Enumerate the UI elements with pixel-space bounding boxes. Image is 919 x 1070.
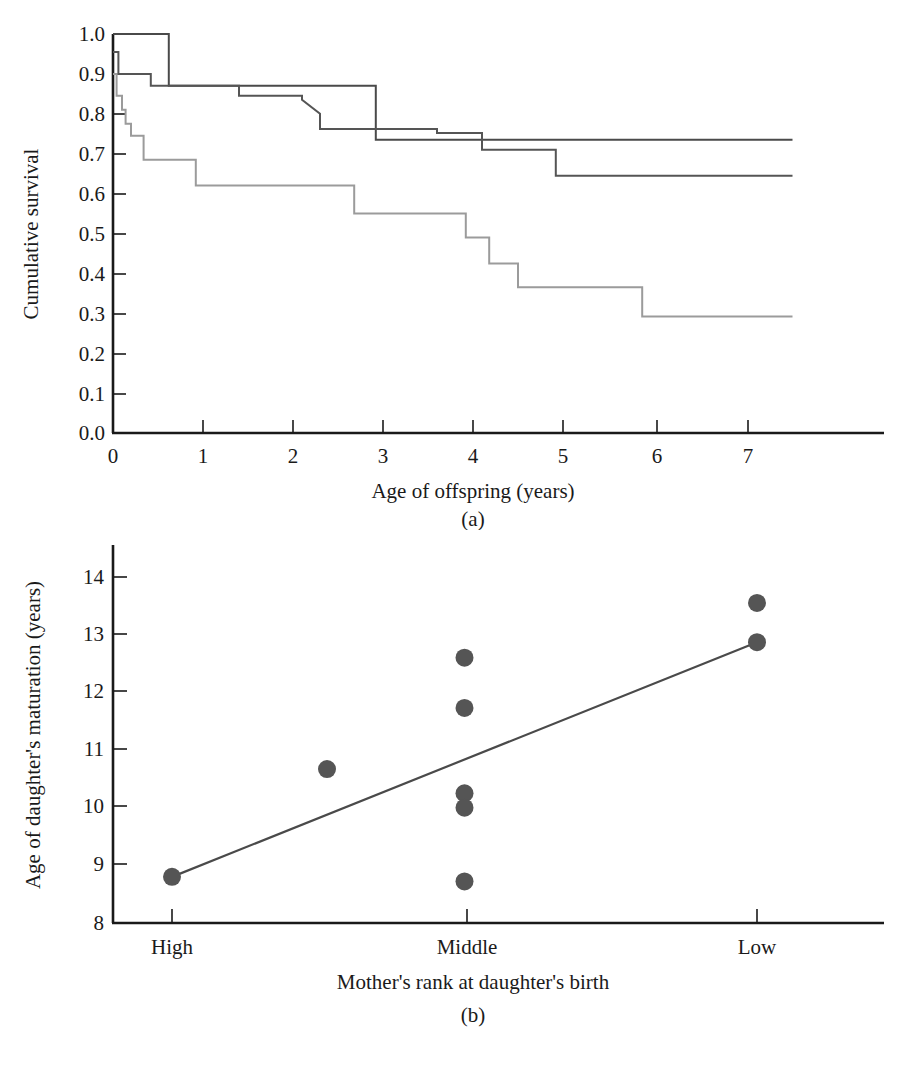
panel-b-caption: (b)	[461, 1003, 486, 1027]
panel-a-caption: (a)	[461, 507, 484, 530]
scatter-point	[748, 633, 766, 651]
panel-a-xtick-3: 3	[378, 444, 389, 468]
scatter-point	[163, 868, 181, 886]
panel-a-ytick-7: 0.7	[79, 142, 105, 166]
scatter-point	[318, 760, 336, 778]
panel-a-ytick-0: 0.0	[79, 421, 105, 445]
panel-a-y-axis-title: Cumulative survival	[19, 148, 43, 319]
scatter-point	[456, 799, 474, 817]
panel-a-ytick-2: 0.2	[79, 342, 105, 366]
panel-b-xtick-middle: Middle	[437, 935, 498, 959]
panel-b-xtick-high: High	[151, 935, 194, 959]
panel-a-survival-chart: 1.0 0.9 0.8 0.7 0.6 0.5 0.4 0.3 0.2 0.1 …	[0, 0, 919, 530]
panel-b-y-ticks	[113, 577, 127, 923]
panel-b-ytick-13: 13	[83, 622, 104, 646]
panel-b-ytick-9: 9	[94, 852, 105, 876]
scatter-point	[456, 872, 474, 890]
panel-b-xtick-low: Low	[738, 935, 777, 959]
panel-a-ytick-4: 0.4	[79, 262, 106, 286]
panel-b-ytick-8: 8	[94, 911, 105, 935]
scatter-point	[748, 594, 766, 612]
survival-curve-middle-rank	[113, 52, 793, 176]
panel-a-xtick-7: 7	[743, 444, 754, 468]
panel-a-ytick-8: 0.8	[79, 102, 105, 126]
scatter-point	[456, 649, 474, 667]
panel-a-ytick-9: 0.9	[79, 62, 105, 86]
panel-b-ytick-10: 10	[83, 794, 104, 818]
panel-a-xtick-5: 5	[558, 444, 569, 468]
scatter-point	[456, 699, 474, 717]
panel-a-x-axis-title: Age of offspring (years)	[371, 479, 574, 503]
panel-a-ytick-6: 0.6	[79, 182, 105, 206]
panel-a-xtick-6: 6	[652, 444, 663, 468]
panel-b-svg-native: 14 13 12 11 10 9 8 High Middle Low Age o…	[0, 530, 919, 1070]
panel-a-curves	[113, 34, 793, 316]
panel-a-ytick-10: 1.0	[79, 22, 105, 46]
panel-a-svg: 1.0 0.9 0.8 0.7 0.6 0.5 0.4 0.3 0.2 0.1 …	[0, 0, 919, 530]
panel-a-xtick-0: 0	[108, 444, 119, 468]
panel-a-xtick-1: 1	[198, 444, 209, 468]
panel-a-x-ticks	[113, 420, 748, 433]
panel-a-xtick-4: 4	[468, 444, 479, 468]
panel-b-ytick-12: 12	[83, 679, 104, 703]
panel-a-ytick-5: 0.5	[79, 222, 105, 246]
regression-line	[172, 642, 757, 877]
panel-b-ytick-14: 14	[83, 565, 105, 589]
panel-b-ytick-11: 11	[84, 737, 104, 761]
panel-a-xtick-2: 2	[288, 444, 299, 468]
panel-b-drawing-layer: 14 13 12 11 10 9 8 High Middle Low Age o…	[0, 530, 919, 1070]
scatter-points-group	[163, 594, 766, 891]
survival-curve-low-rank	[113, 74, 793, 317]
panel-b-x-ticks	[172, 909, 757, 923]
panel-a-ytick-3: 0.3	[79, 302, 105, 326]
figure-container: 1.0 0.9 0.8 0.7 0.6 0.5 0.4 0.3 0.2 0.1 …	[0, 0, 919, 1070]
panel-a-y-ticks	[113, 34, 126, 433]
panel-b-y-axis-title: Age of daughter's maturation (years)	[21, 581, 45, 889]
panel-b-x-axis-title: Mother's rank at daughter's birth	[337, 970, 610, 994]
panel-a-ytick-1: 0.1	[79, 382, 105, 406]
